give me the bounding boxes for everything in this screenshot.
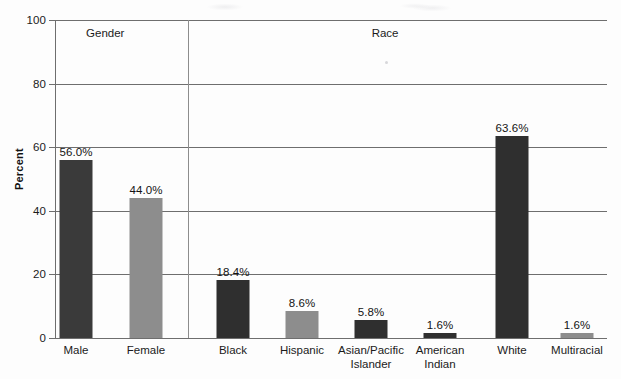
category-label-line: Hispanic — [280, 343, 324, 357]
category-label-line: White — [497, 343, 526, 357]
bar-white[interactable]: 63.6% — [496, 136, 529, 338]
category-label-line: Multiracial — [551, 343, 603, 357]
bar-female[interactable]: 44.0% — [130, 198, 163, 338]
bar-value-label: 5.8% — [358, 306, 385, 318]
bar-value-label: 8.6% — [289, 297, 316, 309]
category-label-line: Female — [127, 343, 165, 357]
category-label-line: Islander — [338, 357, 404, 371]
group-label-gender: Gender — [86, 27, 124, 39]
bar-chart: Percent 020406080100 56.0%44.0%18.4%8.6%… — [0, 0, 621, 379]
y-tick-label: 40 — [4, 205, 46, 217]
bar-value-label: 1.6% — [564, 319, 591, 331]
bar-multiracial[interactable]: 1.6% — [561, 333, 594, 338]
bar-value-label: 44.0% — [129, 184, 162, 196]
y-axis-title: Percent — [13, 148, 25, 190]
y-tick-label: 0 — [4, 332, 46, 344]
bar-asian-pacific-islander[interactable]: 5.8% — [355, 320, 388, 338]
bar-male[interactable]: 56.0% — [60, 160, 93, 338]
category-label-american-indian: AmericanIndian — [416, 343, 465, 371]
category-label-line: American — [416, 343, 465, 357]
bar-black[interactable]: 18.4% — [217, 280, 250, 339]
plot-area: 56.0%44.0%18.4%8.6%5.8%1.6%63.6%1.6% — [55, 20, 607, 338]
group-divider — [188, 20, 189, 338]
category-label-line: Black — [219, 343, 247, 357]
category-label-white: White — [497, 343, 526, 357]
category-label-male: Male — [64, 343, 89, 357]
bar-value-label: 1.6% — [427, 319, 454, 331]
category-label-black: Black — [219, 343, 247, 357]
category-label-line: Indian — [416, 357, 465, 371]
y-tick-label: 20 — [4, 268, 46, 280]
bar-value-label: 63.6% — [495, 122, 528, 134]
gridline — [55, 20, 607, 21]
bar-hispanic[interactable]: 8.6% — [286, 311, 319, 338]
category-label-multiracial: Multiracial — [551, 343, 603, 357]
group-label-race: Race — [372, 27, 399, 39]
category-label-female: Female — [127, 343, 165, 357]
y-tick-label: 100 — [4, 14, 46, 26]
bar-value-label: 18.4% — [216, 266, 249, 278]
gridline — [55, 84, 607, 85]
gridline — [55, 338, 607, 339]
category-label-asian-pacific-islander: Asian/PacificIslander — [338, 343, 404, 371]
category-label-line: Asian/Pacific — [338, 343, 404, 357]
y-tick-label: 60 — [4, 141, 46, 153]
category-label-line: Male — [64, 343, 89, 357]
category-label-hispanic: Hispanic — [280, 343, 324, 357]
bar-value-label: 56.0% — [59, 146, 92, 158]
scan-noise-artifact — [0, 0, 621, 14]
bar-american-indian[interactable]: 1.6% — [424, 333, 457, 338]
y-tick-label: 80 — [4, 78, 46, 90]
